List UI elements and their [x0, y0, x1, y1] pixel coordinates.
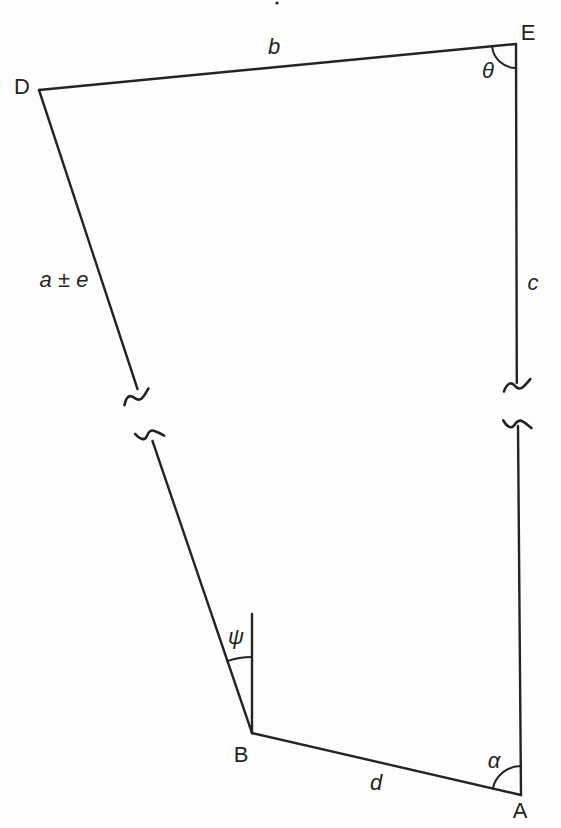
vertex-label-B: B — [234, 744, 249, 766]
figure-canvas: D E B A b a ± e c d θ ψ α — [0, 0, 561, 828]
break-mark-DB-lower — [135, 426, 164, 443]
angle-label-psi: ψ — [228, 626, 244, 648]
edge-label-b: b — [268, 36, 280, 58]
angle-label-theta: θ — [482, 60, 494, 82]
geometry-diagram — [0, 0, 561, 828]
stray-dot — [275, 1, 278, 4]
edge-EA-lower — [518, 426, 521, 795]
break-mark-DB-upper — [122, 389, 151, 406]
vertex-label-D: D — [14, 76, 30, 98]
vertex-label-E: E — [521, 22, 536, 44]
edge-label-c: c — [528, 272, 539, 294]
angle-arc-theta — [492, 46, 516, 68]
edge-label-d: d — [370, 772, 382, 794]
edge-EA-upper — [516, 44, 517, 383]
edge-DB-lower — [153, 441, 253, 733]
edge-label-a-pm-e: a ± e — [40, 269, 89, 291]
angle-arc-psi — [227, 657, 252, 661]
angle-label-alpha: α — [488, 750, 501, 772]
edge-DB-upper — [39, 90, 138, 389]
vertex-label-A: A — [513, 800, 528, 822]
edge-d — [252, 733, 521, 795]
